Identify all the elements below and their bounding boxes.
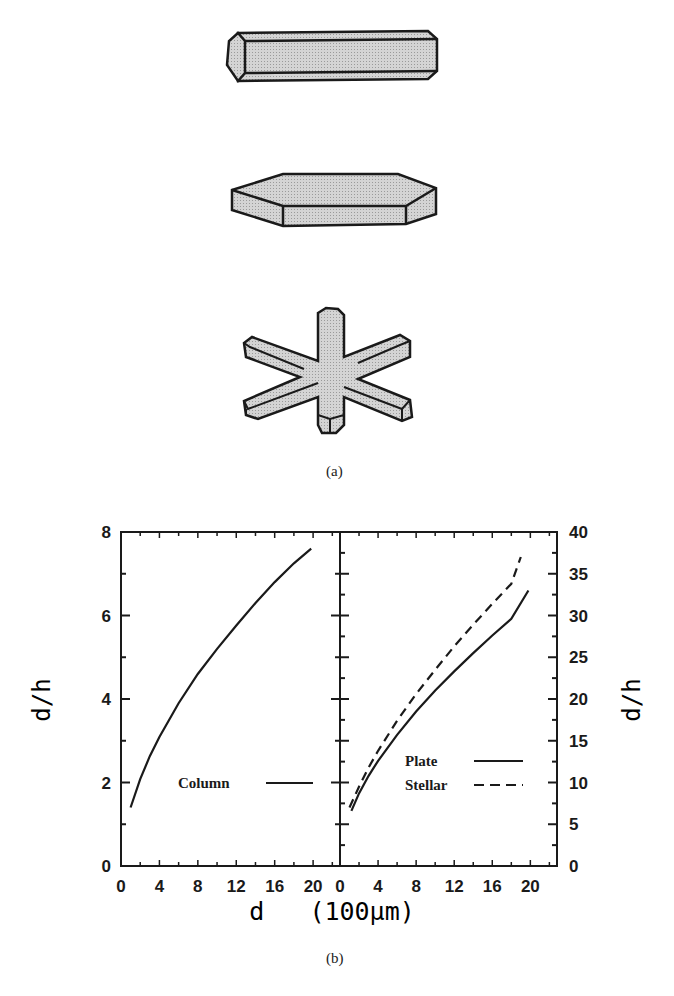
y-tick-label: 20: [569, 690, 588, 709]
y-tick-label: 5: [569, 815, 578, 834]
y-tick-label: 0: [569, 857, 578, 876]
x-tick-label: 12: [445, 877, 464, 896]
legend-label-column: Column: [178, 775, 230, 791]
x-axis-label: d (100μm): [249, 897, 415, 926]
y-tick-label: 10: [569, 774, 588, 793]
x-tick-label: 4: [373, 877, 383, 896]
plate-crystal-drawing: [228, 170, 440, 236]
series-line-stellar: [350, 557, 521, 808]
series-line-column: [131, 549, 312, 808]
plot-frame: [340, 532, 557, 866]
right-y-axis-label: d/h: [618, 678, 646, 721]
figure-part-b-label: (b): [326, 950, 344, 967]
x-tick-label: 20: [521, 877, 540, 896]
y-tick-label: 6: [102, 607, 111, 626]
y-tick-label: 35: [569, 565, 588, 584]
x-tick-label: 4: [155, 877, 165, 896]
x-tick-label: 8: [411, 877, 420, 896]
legend-label-plate: Plate: [405, 753, 438, 769]
chart-d-over-h-vs-d: 04812162002468Column 0481216200510152025…: [0, 500, 674, 940]
stellar-crystal-drawing: [240, 305, 420, 450]
left-y-axis-label: d/h: [28, 678, 56, 721]
x-tick-label: 16: [483, 877, 502, 896]
x-tick-label: 0: [335, 877, 344, 896]
x-tick-label: 12: [227, 877, 246, 896]
y-tick-label: 40: [569, 523, 588, 542]
y-tick-label: 8: [102, 523, 111, 542]
x-tick-label: 20: [304, 877, 323, 896]
legend-label-stellar: Stellar: [405, 777, 448, 793]
right-panel-plate-stellar: 0481216200510152025303540PlateStellar: [335, 523, 588, 896]
y-tick-label: 2: [102, 774, 111, 793]
left-panel-column: 04812162002468Column: [102, 523, 340, 896]
y-tick-label: 30: [569, 607, 588, 626]
x-tick-label: 16: [265, 877, 284, 896]
y-tick-label: 4: [102, 690, 112, 709]
y-tick-label: 25: [569, 648, 588, 667]
figure-part-a-label: (a): [326, 463, 343, 480]
y-tick-label: 0: [102, 857, 111, 876]
plot-frame: [121, 532, 340, 866]
x-tick-label: 0: [116, 877, 125, 896]
y-tick-label: 15: [569, 732, 588, 751]
x-tick-label: 8: [193, 877, 202, 896]
column-crystal-drawing: [225, 25, 445, 90]
